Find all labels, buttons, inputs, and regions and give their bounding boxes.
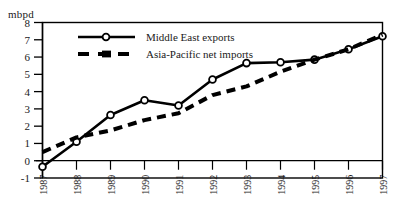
chart-container: mbpd 876543210-1 19871988198919901991199…: [0, 0, 394, 210]
series-marker-open-circle: [175, 102, 182, 109]
series-marker-open-circle: [243, 60, 250, 67]
x-axis-tick-label: 1991: [174, 175, 185, 195]
y-axis-tick-label: 3: [25, 103, 31, 115]
x-axis-tick-label: 1988: [72, 175, 83, 195]
x-axis-tick-label: 1996: [344, 175, 355, 195]
y-axis-tick-label: 0: [25, 155, 31, 167]
line-chart-plot: 876543210-1 1987198819891990199119921993…: [0, 0, 394, 210]
plot-frame: [43, 23, 383, 179]
x-axis-tick-label: 1992: [208, 175, 219, 195]
x-axis-tick-label: 1990: [140, 175, 151, 195]
y-axis-tick-label: 4: [25, 86, 31, 98]
x-axis-tick-label: 1994: [276, 175, 287, 195]
y-axis-tick-label: 5: [25, 68, 31, 80]
chart-legend: Middle East exportsAsia-Pacific net impo…: [78, 31, 253, 60]
legend-label: Asia-Pacific net imports: [146, 48, 253, 60]
legend-swatch-open-circle: [103, 34, 110, 41]
x-axis-tick-label: 1997: [378, 175, 389, 195]
legend-label: Middle East exports: [146, 31, 235, 43]
x-axis-tick-label: 1987: [38, 175, 49, 195]
plot-border: [43, 23, 383, 179]
series-marker-open-circle: [141, 97, 148, 104]
x-axis-tick-label: 1995: [310, 175, 321, 195]
series-marker-open-circle: [209, 76, 216, 83]
y-axis: 876543210-1: [21, 17, 43, 185]
y-axis-tick-label: 2: [25, 120, 31, 132]
x-axis-tick-label: 1989: [106, 175, 117, 195]
y-axis-tick-label: 6: [25, 51, 31, 63]
y-axis-tick-label: 8: [25, 17, 31, 29]
x-axis-tick-label: 1993: [242, 175, 253, 195]
series-marker-open-circle: [39, 163, 46, 170]
series-marker-open-circle: [277, 59, 284, 66]
legend-swatch-filled-square: [102, 51, 111, 58]
series-marker-open-circle: [107, 112, 114, 119]
y-axis-tick-label: 7: [25, 34, 31, 46]
y-axis-tick-label: 1: [25, 137, 31, 149]
y-axis-tick-label: -1: [21, 172, 30, 184]
